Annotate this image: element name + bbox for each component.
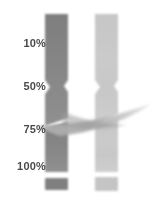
left-bottom-band bbox=[45, 178, 68, 190]
right-bottom-band bbox=[95, 177, 118, 191]
bottom-bands bbox=[45, 177, 118, 191]
lane-graphic bbox=[0, 0, 154, 204]
axis-label-75-percent: 75% bbox=[0, 123, 46, 135]
axis-label-10-percent: 10% bbox=[0, 37, 46, 49]
left-lane-shape bbox=[45, 14, 68, 172]
gel-lane-figure: 10% 50% 75% 100% bbox=[0, 0, 154, 204]
axis-label-50-percent: 50% bbox=[0, 80, 46, 92]
axis-label-100-percent: 100% bbox=[0, 160, 46, 172]
right-lane-shape bbox=[95, 14, 118, 172]
